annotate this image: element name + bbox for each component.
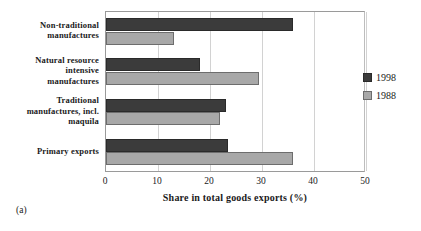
x-tick-label-0: 0 [90, 176, 120, 187]
bar[interactable] [106, 99, 226, 112]
bar-group [106, 133, 364, 173]
legend-swatch-icon [363, 91, 372, 100]
x-tick-label-40: 40 [298, 176, 328, 187]
legend-item[interactable]: 1988 [363, 88, 417, 103]
x-tick-label-20: 20 [194, 176, 224, 187]
x-tick-label-10: 10 [142, 176, 172, 187]
bar-group [106, 12, 364, 52]
category-label: Natural resourceintensivemanufactures [0, 55, 99, 87]
category-label-line: maquila [0, 116, 99, 127]
figure-panel: Non-traditionalmanufacturesNatural resou… [0, 0, 421, 231]
bar[interactable] [106, 152, 293, 165]
bar[interactable] [106, 32, 174, 45]
bar[interactable] [106, 18, 293, 31]
legend-item[interactable]: 1998 [363, 70, 417, 85]
x-tick-label-50: 50 [350, 176, 380, 187]
category-label: Traditionalmanufactures, incl.maquila [0, 95, 99, 127]
bar[interactable] [106, 72, 259, 85]
category-label-line: manufactures [0, 30, 99, 41]
category-label: Primary exports [0, 146, 99, 157]
category-label-line: manufactures, incl. [0, 106, 99, 117]
legend-swatch-icon [363, 73, 372, 82]
category-label-line: Non-traditional [0, 20, 99, 31]
x-axis-title: Share in total goods exports (%) [105, 192, 365, 203]
bar-group [106, 93, 364, 133]
category-label-line: manufactures [0, 76, 99, 87]
category-label-line: Primary exports [0, 146, 99, 157]
plot-area [105, 11, 365, 172]
legend-label: 1998 [376, 72, 396, 83]
bar[interactable] [106, 58, 200, 71]
x-tick-label-30: 30 [246, 176, 276, 187]
category-label-line: intensive [0, 65, 99, 76]
bar[interactable] [106, 112, 220, 125]
legend-label: 1988 [376, 90, 396, 101]
category-label: Non-traditionalmanufactures [0, 20, 99, 41]
bar[interactable] [106, 139, 228, 152]
category-label-line: Traditional [0, 95, 99, 106]
category-label-line: Natural resource [0, 55, 99, 66]
figure-caption: (a) [16, 205, 27, 216]
bar-group [106, 52, 364, 92]
legend: 19981988 [363, 70, 417, 106]
